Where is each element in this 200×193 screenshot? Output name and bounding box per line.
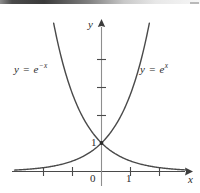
origin-tick-label: 0 bbox=[90, 173, 96, 184]
x-tick-label-1: 1 bbox=[126, 173, 132, 184]
plot-canvas bbox=[0, 0, 200, 193]
curve-label-exp-x-text: y = e bbox=[140, 63, 165, 75]
curve-exp-negx bbox=[54, 23, 186, 170]
y-tick-label-1: 1 bbox=[91, 137, 97, 148]
curve-label-exp-x-exponent: x bbox=[165, 62, 169, 70]
curve-exp-x bbox=[15, 23, 150, 170]
y-axis-arrowhead bbox=[98, 19, 105, 27]
curve-label-exp-x: y = ex bbox=[140, 64, 168, 75]
curve-label-exp-negx-exponent: −x bbox=[39, 62, 48, 70]
curve-label-exp-negx-text: y = e bbox=[14, 63, 39, 75]
curve-label-exp-negx: y = e−x bbox=[14, 64, 48, 75]
point-0-1-marker bbox=[100, 141, 104, 145]
x-axis-label: x bbox=[188, 174, 193, 185]
exponential-functions-figure: y = e−x y = ex y x 0 1 1 bbox=[0, 0, 200, 193]
y-axis-label: y bbox=[88, 19, 93, 30]
